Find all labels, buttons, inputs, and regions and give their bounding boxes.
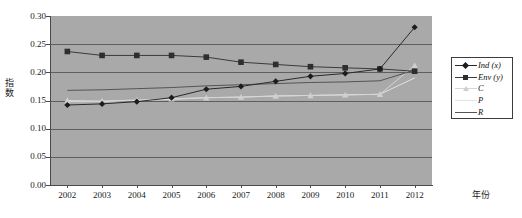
y-tick-label: 0.10 — [16, 124, 46, 133]
y-tick-mark — [46, 157, 50, 158]
y-tick-mark — [46, 72, 50, 73]
x-tick-mark — [67, 185, 68, 188]
data-point — [307, 73, 313, 79]
data-point — [99, 53, 105, 59]
legend-marker-diamond-icon — [454, 60, 478, 71]
x-axis-title: 年份 — [472, 190, 490, 200]
x-tick-label: 2012 — [395, 190, 435, 200]
y-tick-mark — [46, 44, 50, 45]
legend-item[interactable]: P — [454, 95, 512, 107]
x-tick-mark — [380, 185, 381, 188]
y-axis-tick-labels: 0.300.250.200.150.100.050.00 — [12, 0, 46, 218]
x-tick-mark — [276, 185, 277, 188]
x-tick-mark — [172, 185, 173, 188]
chart-legend: Ind (x)Env (y)CPR — [451, 57, 513, 119]
legend-label: P — [478, 96, 483, 105]
legend-marker-none-icon — [454, 107, 478, 118]
x-tick-mark — [137, 185, 138, 188]
x-tick-mark — [102, 185, 103, 188]
legend-label: R — [478, 108, 483, 117]
data-point — [342, 70, 348, 76]
data-point — [65, 49, 71, 55]
data-point — [308, 64, 314, 70]
x-tick-mark — [310, 185, 311, 188]
legend-marker-triangle-icon — [454, 83, 478, 94]
data-point — [203, 86, 209, 92]
x-tick-mark — [241, 185, 242, 188]
legend-item[interactable]: Ind (x) — [454, 60, 512, 72]
y-tick-mark — [46, 16, 50, 17]
legend-marker-none-icon — [454, 95, 478, 106]
y-tick-label: 0.05 — [16, 152, 46, 161]
series-layer — [50, 16, 432, 185]
series-env-y- — [65, 49, 418, 74]
y-tick-label: 0.20 — [16, 68, 46, 77]
data-point — [169, 53, 175, 59]
y-tick-label: 0.00 — [16, 181, 46, 190]
legend-label: Ind (x) — [478, 61, 501, 70]
legend-item[interactable]: R — [454, 106, 512, 118]
y-tick-mark — [46, 129, 50, 130]
x-tick-mark — [345, 185, 346, 188]
y-tick-mark — [46, 101, 50, 102]
legend-item[interactable]: C — [454, 83, 512, 95]
data-point — [411, 62, 417, 68]
y-tick-label: 0.30 — [16, 12, 46, 21]
y-tick-mark — [46, 185, 50, 186]
y-tick-label: 0.15 — [16, 96, 46, 105]
data-point — [134, 53, 140, 59]
y-tick-label: 0.25 — [16, 40, 46, 49]
x-tick-mark — [206, 185, 207, 188]
data-point — [203, 54, 209, 60]
data-point — [342, 65, 348, 71]
data-point — [412, 68, 418, 74]
legend-item[interactable]: Env (y) — [454, 72, 512, 84]
legend-label: Env (y) — [478, 73, 503, 82]
x-axis-title-text: 年份 — [472, 190, 490, 200]
x-tick-mark — [415, 185, 416, 188]
legend-label: C — [478, 84, 484, 93]
series-line — [67, 27, 414, 105]
chart-figure: 指数 0.300.250.200.150.100.050.00 20022003… — [0, 0, 522, 218]
data-point — [273, 62, 279, 68]
data-point — [238, 59, 244, 65]
legend-marker-square-icon — [454, 72, 478, 83]
